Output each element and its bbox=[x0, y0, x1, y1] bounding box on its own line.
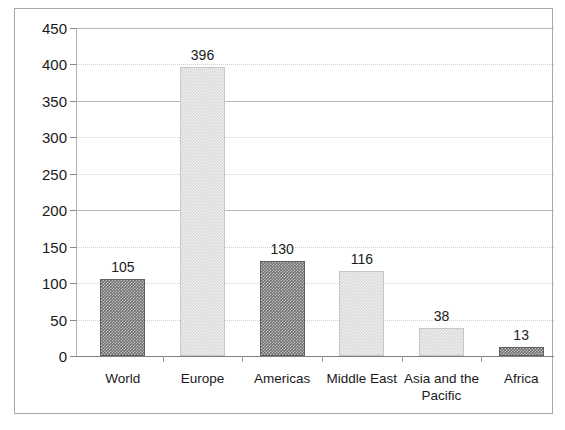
y-tick-label: 100 bbox=[21, 276, 67, 291]
y-axis-tick-labels: 450400350300250200150100500 bbox=[15, 9, 67, 413]
x-tick-mark bbox=[322, 356, 323, 362]
category-label: Africa bbox=[475, 371, 565, 388]
bar-value-label: 116 bbox=[332, 252, 392, 266]
y-tick-label: 350 bbox=[21, 93, 67, 108]
bar-value-label: 105 bbox=[93, 260, 153, 274]
bar-value-label: 396 bbox=[173, 48, 233, 62]
category-label: Europe bbox=[157, 371, 249, 388]
x-tick-mark bbox=[481, 356, 482, 362]
bar[interactable] bbox=[180, 67, 225, 356]
bar-value-label: 38 bbox=[412, 309, 472, 323]
bar-value-label: 130 bbox=[252, 242, 312, 256]
x-tick-mark bbox=[242, 356, 243, 362]
y-tick-label: 250 bbox=[21, 166, 67, 181]
bar[interactable] bbox=[260, 261, 305, 356]
category-label: Americas bbox=[236, 371, 328, 388]
y-tick-label: 50 bbox=[21, 312, 67, 327]
chart-frame: 450400350300250200150100500 105396130116… bbox=[14, 8, 553, 414]
y-tick-label: 150 bbox=[21, 239, 67, 254]
bar-value-label: 13 bbox=[491, 328, 551, 342]
y-tick-label: 200 bbox=[21, 203, 67, 218]
category-label: World bbox=[77, 371, 169, 388]
category-label: Middle East bbox=[316, 371, 408, 388]
plot-area bbox=[76, 28, 554, 356]
bar[interactable] bbox=[100, 279, 145, 356]
bar[interactable] bbox=[419, 328, 464, 356]
category-label: Asia and thePacific bbox=[396, 371, 488, 405]
y-tick-label: 0 bbox=[21, 349, 67, 364]
y-tick-label: 400 bbox=[21, 57, 67, 72]
bar[interactable] bbox=[499, 347, 544, 356]
y-tick-label: 300 bbox=[21, 130, 67, 145]
y-tick-label: 450 bbox=[21, 21, 67, 36]
x-tick-mark bbox=[163, 356, 164, 362]
x-tick-mark bbox=[402, 356, 403, 362]
bar[interactable] bbox=[339, 271, 384, 356]
